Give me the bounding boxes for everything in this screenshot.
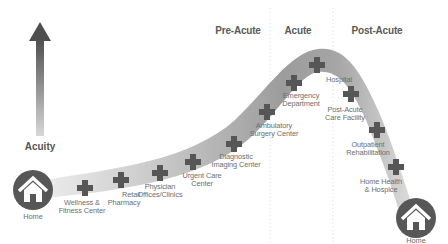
- care-setting-label-physician-offices: Physician Offices/Clinics: [137, 183, 182, 200]
- care-setting-label-post-acute-care: Post-Acute Care Facility: [325, 106, 365, 123]
- home-icon-end: [396, 198, 436, 238]
- home-label-start: Home: [23, 212, 43, 221]
- care-setting-label-diagnostic-imaging: Diagnostic Imaging Center: [211, 153, 260, 170]
- care-setting-label-home-health-hospice: Home Health & Hospice: [360, 178, 402, 195]
- care-setting-label-urgent-care: Urgent Care Center: [182, 172, 221, 189]
- phase-header-acute: Acute: [285, 25, 312, 36]
- care-setting-label-outpatient-rehab: Outpatient Rehabilitation: [346, 141, 389, 158]
- care-setting-label-ambulatory-surgery: Ambulatory Surgery Center: [250, 122, 299, 139]
- home-label-end: Home: [406, 236, 426, 244]
- care-setting-label-emergency-department: Emergency Department: [282, 92, 320, 109]
- acuity-axis-label: Acuity: [25, 141, 56, 152]
- phase-header-pre-acute: Pre-Acute: [215, 25, 260, 36]
- care-setting-label-hospital: Hospital: [326, 76, 352, 84]
- acuity-arrow-icon: [29, 22, 51, 136]
- care-continuum-diagram: Pre-Acute Acute Post-Acute Acuity Home H…: [0, 0, 448, 244]
- home-icon-start: [13, 170, 53, 210]
- care-setting-label-wellness: Wellness & Fitness Center: [59, 199, 106, 216]
- phase-header-post-acute: Post-Acute: [352, 25, 403, 36]
- care-journey-band: [44, 49, 412, 208]
- care-setting-label-retail-pharmacy: Retail Pharmacy: [108, 191, 140, 208]
